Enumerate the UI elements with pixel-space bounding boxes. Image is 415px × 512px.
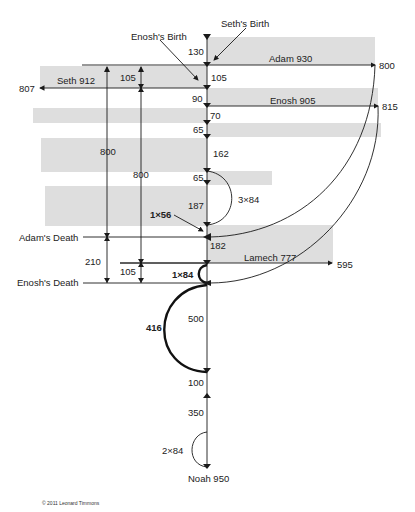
arc-2x84-label: 2×84	[162, 445, 183, 456]
one-84-arc	[199, 265, 207, 283]
seth-lifeline-label: Seth 912	[57, 75, 95, 86]
adam-end-value: 800	[379, 60, 395, 71]
enoshs-birth-label: Enosh's Birth	[131, 31, 187, 42]
adam-lifeline-label: Adam 930	[269, 53, 312, 64]
segment-182: 182	[210, 240, 226, 251]
segment-187: 187	[188, 200, 204, 211]
arc-1x84-label: 1×84	[172, 269, 193, 280]
segment-162: 162	[213, 148, 229, 159]
span-800-seth: 800	[133, 169, 149, 180]
segment-70: 70	[210, 110, 221, 121]
span-800-adam: 800	[100, 146, 116, 157]
adams-death-label: Adam's Death	[19, 232, 78, 243]
seths-birth-label: Seth's Birth	[221, 18, 269, 29]
lamech-lifeline-label: Lamech 777	[244, 252, 296, 263]
arc-416-label: 416	[146, 322, 162, 333]
span-105-top: 105	[120, 72, 136, 83]
copyright-text: © 2011 Leonard Timmons	[42, 498, 99, 509]
segment-90: 90	[192, 93, 203, 104]
segment-500: 500	[188, 313, 204, 324]
span-210: 210	[85, 256, 101, 267]
segment-65-b: 65	[193, 172, 204, 183]
band-right-3	[207, 123, 381, 137]
segment-130: 130	[188, 46, 204, 57]
enoshs-death-label: Enosh's Death	[17, 277, 79, 288]
enosh-lifeline-label: Enosh 905	[270, 95, 315, 106]
enosh-end-value: 815	[382, 101, 398, 112]
band-left-2	[33, 108, 207, 123]
lamech-end-value: 595	[337, 259, 353, 270]
segment-105: 105	[211, 72, 227, 83]
arc-3x84-label: 3×84	[238, 194, 259, 205]
arc-1x56-label: 1×56	[150, 209, 171, 220]
two-84-arc	[192, 432, 207, 467]
noah-label: Noah 950	[188, 473, 229, 484]
segment-65-a: 65	[193, 124, 204, 135]
seth-end-value: 807	[19, 83, 35, 94]
segment-100: 100	[188, 377, 204, 388]
segment-350: 350	[188, 407, 204, 418]
four16-arc	[164, 285, 207, 372]
band-left-3	[41, 138, 207, 172]
band-right-4	[207, 171, 272, 185]
span-105-bottom: 105	[120, 266, 136, 277]
